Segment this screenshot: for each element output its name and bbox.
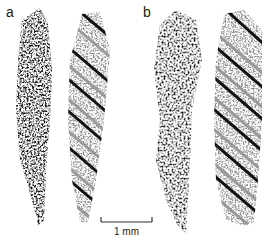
scale-bar bbox=[101, 217, 152, 222]
panel-a-helix bbox=[60, 0, 116, 240]
panel-label-a: a bbox=[6, 5, 14, 19]
figure: a b 1 mm bbox=[0, 0, 272, 241]
panel-b-point-cloud bbox=[154, 10, 202, 234]
panel-a-point-cloud bbox=[16, 8, 52, 226]
panel-label-b: b bbox=[143, 5, 151, 19]
panel-b-helix bbox=[210, 10, 268, 241]
scale-bar-label: 1 mm bbox=[114, 227, 139, 237]
figure-graphics bbox=[0, 0, 272, 241]
